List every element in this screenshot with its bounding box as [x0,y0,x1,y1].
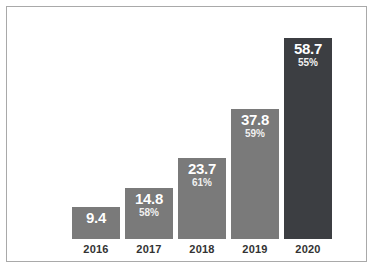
bar-2016[interactable]: 9.4 [72,207,120,239]
x-axis-tick-labels: 2016 2017 2018 2019 2020 [72,243,334,261]
bar-2019[interactable]: 37.8 59% [231,109,279,239]
bar-2020[interactable]: 58.7 55% [284,38,332,239]
xtick-2020: 2020 [284,243,332,255]
bar-label-group: 9.4 [72,210,120,227]
xtick-2018: 2018 [178,243,226,255]
bar-value-label: 37.8 [231,112,279,127]
bar-value-label: 23.7 [178,161,226,176]
bar-label-group: 14.8 58% [125,191,173,218]
chart-frame: 9.4 14.8 58% 23.7 61% [6,6,367,262]
bar-2017[interactable]: 14.8 58% [125,188,173,239]
xtick-2016: 2016 [72,243,120,255]
bar-percent-label: 61% [178,178,226,188]
plot-area: 9.4 14.8 58% 23.7 61% [72,35,334,239]
xtick-2019: 2019 [231,243,279,255]
bar-label-group: 23.7 61% [178,161,226,188]
bar-value-label: 9.4 [72,210,120,225]
bar-percent-label: 59% [231,129,279,139]
bar-2018[interactable]: 23.7 61% [178,158,226,239]
bar-value-label: 14.8 [125,191,173,206]
chart-figure: 9.4 14.8 58% 23.7 61% [0,0,378,275]
bar-percent-label: 55% [284,58,332,68]
bar-label-group: 37.8 59% [231,112,279,139]
bar-label-group: 58.7 55% [284,41,332,68]
bar-percent-label: 58% [125,208,173,218]
xtick-2017: 2017 [125,243,173,255]
bar-value-label: 58.7 [284,41,332,56]
